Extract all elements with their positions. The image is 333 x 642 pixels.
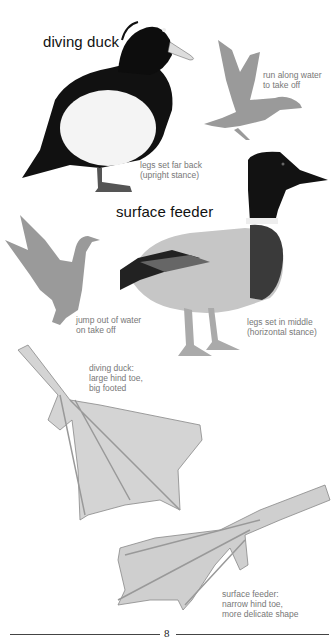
heading-diving-duck: diving duck: [43, 33, 119, 50]
page-number: 8: [164, 627, 170, 639]
caption-diving-legs: legs set far back (upright stance): [140, 160, 202, 180]
caption-surface-foot: surface feeder: narrow hind toe, more de…: [222, 589, 299, 619]
heading-surface-feeder: surface feeder: [116, 203, 213, 220]
footer-rule-left: [10, 634, 160, 635]
surface-takeoff-silhouette: [5, 215, 100, 325]
caption-surface-takeoff: jump out of water on take off: [76, 315, 141, 335]
caption-diving-takeoff: run along water to take off: [263, 70, 322, 90]
diving-takeoff-silhouette: [204, 40, 302, 140]
caption-surface-legs: legs set in middle (horizontal stance): [247, 317, 317, 337]
caption-diving-foot: diving duck: large hind toe, big footed: [89, 363, 143, 393]
footer-rule-right: [176, 634, 329, 635]
